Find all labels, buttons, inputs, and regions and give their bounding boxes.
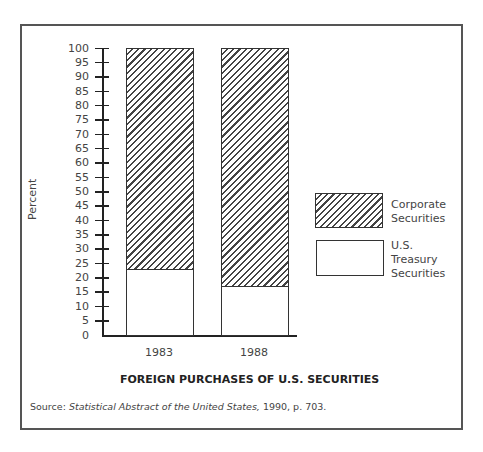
y-tick [95,162,109,164]
y-tick-label: 35 [59,229,89,240]
y-axis-label: Percent [26,179,39,220]
y-tick [95,306,109,308]
bar-1988-treasury [221,286,289,336]
y-tick-label: 75 [59,114,89,125]
y-tick-label: 90 [59,71,89,82]
y-tick-label: 85 [59,86,89,97]
y-tick [95,76,109,78]
source-note: Source: Statistical Abstract of the Unit… [30,401,326,412]
y-tick [95,177,109,179]
y-tick-label: 5 [59,315,89,326]
y-tick [95,148,109,150]
y-tick-label: 55 [59,172,89,183]
y-axis-title: Percent [26,179,39,220]
y-tick-label: 45 [59,200,89,211]
y-tick [95,48,109,50]
y-tick [95,234,109,236]
y-tick [95,320,109,322]
legend-swatch-corporate [315,193,383,228]
y-tick [95,62,109,64]
source-suffix: 1990, p. 703. [263,401,326,412]
y-tick-label: 95 [59,57,89,68]
y-tick [95,134,109,136]
y-tick [95,220,109,222]
chart-title: FOREIGN PURCHASES OF U.S. SECURITIES [120,373,379,386]
source-title: Statistical Abstract of the United State… [69,401,260,412]
bar-1983-treasury [126,269,194,336]
y-tick [95,263,109,265]
y-tick-label: 65 [59,143,89,154]
y-tick-label: 10 [59,301,89,312]
y-tick [95,119,109,121]
legend-swatch-treasury [316,240,384,276]
y-tick-label: 80 [59,100,89,111]
y-tick [95,91,109,93]
y-tick-label: 60 [59,157,89,168]
y-tick-label: 50 [59,186,89,197]
y-tick [95,291,109,293]
y-tick-label: 25 [59,258,89,269]
x-tick-label: 1988 [240,346,268,359]
y-tick-label: 0 [59,330,89,341]
y-tick [95,277,109,279]
y-tick [95,105,109,107]
y-tick-label: 20 [59,272,89,283]
y-tick [95,205,109,207]
y-tick [95,191,109,193]
source-prefix: Source: [30,401,66,412]
legend-label-treasury: U.S. Treasury Securities [391,239,445,281]
bar-1988-corporate [221,48,289,287]
y-tick-label: 40 [59,215,89,226]
y-tick-label: 15 [59,286,89,297]
y-tick-label: 70 [59,129,89,140]
y-tick [95,248,109,250]
y-tick-label: 100 [59,43,89,54]
legend-label-corporate: Corporate Securities [391,198,446,226]
x-tick-label: 1983 [145,346,173,359]
bar-1983-corporate [126,48,194,270]
y-tick-label: 30 [59,243,89,254]
